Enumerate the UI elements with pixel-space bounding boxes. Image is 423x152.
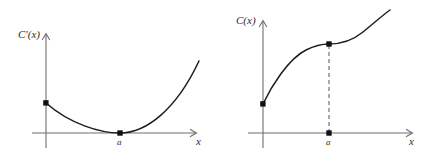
left-x-axis-label: x — [195, 135, 201, 147]
right-y-intercept-marker — [260, 101, 265, 106]
left-minimum-marker — [117, 130, 122, 135]
right-curve-cost — [263, 10, 390, 104]
left-y-axis-label: C′(x) — [18, 28, 40, 41]
cost-function-diagram-pair: C′(x) x a C(x) x a — [0, 0, 423, 152]
right-y-axis-label: C(x) — [236, 14, 256, 27]
right-x-axis-point-marker — [326, 130, 331, 135]
left-point-label-a: a — [117, 137, 122, 147]
left-y-intercept-marker — [43, 100, 48, 105]
right-inflection-marker — [326, 41, 331, 46]
left-curve-marginal-cost — [46, 61, 199, 133]
right-point-label-a: a — [326, 137, 331, 147]
right-x-axis-label: x — [408, 135, 414, 147]
right-panel-cost-graph: C(x) x a — [236, 10, 414, 148]
left-panel-marginal-cost-graph: C′(x) x a — [18, 28, 201, 148]
